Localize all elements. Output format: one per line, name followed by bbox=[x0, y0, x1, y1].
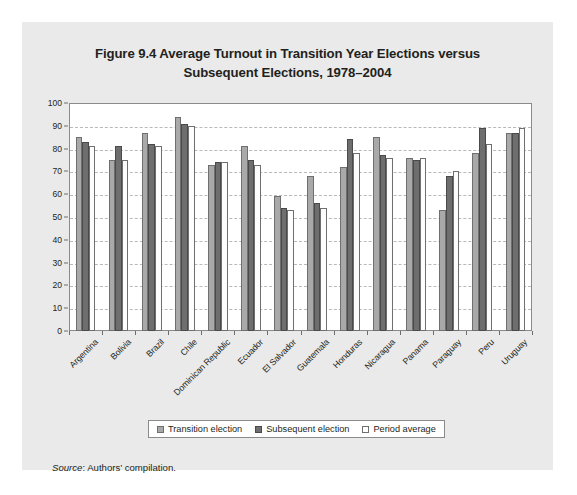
y-axis-tick-label: 40 bbox=[52, 235, 62, 245]
x-axis-tick-mark bbox=[433, 331, 434, 335]
x-axis-tick-mark bbox=[135, 331, 136, 335]
x-axis-tick-label: Paraguay bbox=[431, 337, 464, 370]
legend-swatch-icon bbox=[362, 426, 369, 433]
legend-swatch-icon bbox=[255, 426, 262, 433]
y-axis-tick-mark bbox=[64, 148, 68, 149]
legend-swatch-icon bbox=[157, 426, 164, 433]
x-axis: ArgentinaBoliviaBrazilChileDominican Rep… bbox=[69, 331, 532, 411]
x-axis-tick-mark bbox=[532, 331, 533, 335]
x-axis-tick-label: Honduras bbox=[331, 337, 364, 370]
x-axis-tick-label: Brazil bbox=[144, 337, 166, 359]
y-axis-tick-mark bbox=[64, 103, 68, 104]
gridline bbox=[70, 241, 531, 242]
x-axis-tick-label: Chile bbox=[178, 337, 199, 358]
x-axis-tick-mark bbox=[301, 331, 302, 335]
y-axis-tick-mark bbox=[64, 239, 68, 240]
figure-panel: Figure 9.4 Average Turnout in Transition… bbox=[22, 22, 553, 470]
gridline bbox=[70, 264, 531, 265]
chart-plot-area bbox=[69, 103, 532, 331]
legend-item[interactable]: Period average bbox=[362, 424, 435, 434]
legend-label: Transition election bbox=[168, 424, 242, 434]
x-axis-tick-label: Guatemala bbox=[295, 337, 331, 373]
gridline bbox=[70, 195, 531, 196]
y-axis-tick-label: 50 bbox=[52, 212, 62, 222]
chart-legend: Transition electionSubsequent electionPe… bbox=[148, 420, 445, 438]
legend-item[interactable]: Subsequent election bbox=[255, 424, 349, 434]
x-axis-tick-label: Panama bbox=[401, 337, 431, 367]
chart-gridlines bbox=[70, 104, 531, 330]
y-axis-tick-mark bbox=[64, 194, 68, 195]
gridline bbox=[70, 286, 531, 287]
gridline bbox=[70, 218, 531, 219]
y-axis-tick-label: 60 bbox=[52, 189, 62, 199]
x-axis-tick-label: Nicaragua bbox=[363, 337, 397, 371]
x-axis-tick-mark bbox=[102, 331, 103, 335]
x-axis-tick-mark bbox=[267, 331, 268, 335]
x-axis-tick-label: El Salvador bbox=[260, 337, 298, 375]
x-axis-tick-mark bbox=[234, 331, 235, 335]
y-axis-tick-label: 90 bbox=[52, 121, 62, 131]
x-axis-tick-mark bbox=[499, 331, 500, 335]
x-axis-tick-label: Argentina bbox=[67, 337, 100, 370]
legend-label: Subsequent election bbox=[266, 424, 349, 434]
source-text: : Authors’ compilation. bbox=[82, 462, 176, 473]
y-axis-tick-label: 10 bbox=[52, 303, 62, 313]
y-axis-tick-mark bbox=[64, 171, 68, 172]
x-axis-tick-mark bbox=[367, 331, 368, 335]
y-axis-tick-mark bbox=[64, 217, 68, 218]
x-axis-tick-label: Dominican Republic bbox=[171, 337, 231, 397]
gridline bbox=[70, 172, 531, 173]
y-axis-tick-mark bbox=[64, 285, 68, 286]
figure-title-line-1: Figure 9.4 Average Turnout in Transition… bbox=[95, 46, 480, 61]
x-axis-tick-mark bbox=[201, 331, 202, 335]
y-axis-tick-label: 100 bbox=[48, 98, 62, 108]
x-axis-tick-label: Uruguay bbox=[500, 337, 530, 367]
y-axis-tick-label: 70 bbox=[52, 166, 62, 176]
x-axis-tick-label: Peru bbox=[477, 337, 497, 357]
y-axis-tick-mark bbox=[64, 125, 68, 126]
y-axis-tick-mark bbox=[64, 331, 68, 332]
y-axis-tick-label: 0 bbox=[57, 326, 62, 336]
y-axis-tick-mark bbox=[64, 308, 68, 309]
x-axis-tick-mark bbox=[69, 331, 70, 335]
x-axis-tick-label: Ecuador bbox=[235, 337, 264, 366]
gridline bbox=[70, 309, 531, 310]
x-axis-tick-mark bbox=[168, 331, 169, 335]
legend-label: Period average bbox=[373, 424, 435, 434]
x-axis-tick-mark bbox=[400, 331, 401, 335]
x-axis-tick-label: Bolivia bbox=[108, 337, 133, 362]
figure-title: Figure 9.4 Average Turnout in Transition… bbox=[52, 44, 523, 82]
y-axis-tick-label: 30 bbox=[52, 258, 62, 268]
x-axis-tick-mark bbox=[466, 331, 467, 335]
y-axis-tick-mark bbox=[64, 262, 68, 263]
source-label: Source bbox=[52, 462, 82, 473]
y-axis-tick-label: 20 bbox=[52, 280, 62, 290]
legend-item[interactable]: Transition election bbox=[157, 424, 242, 434]
gridline bbox=[70, 150, 531, 151]
figure-title-line-2: Subsequent Elections, 1978–2004 bbox=[184, 65, 392, 80]
gridline bbox=[70, 127, 531, 128]
x-axis-tick-mark bbox=[334, 331, 335, 335]
y-axis-tick-label: 80 bbox=[52, 144, 62, 154]
y-axis: 0102030405060708090100 bbox=[42, 96, 68, 338]
source-note: Source: Authors’ compilation. bbox=[52, 462, 176, 473]
